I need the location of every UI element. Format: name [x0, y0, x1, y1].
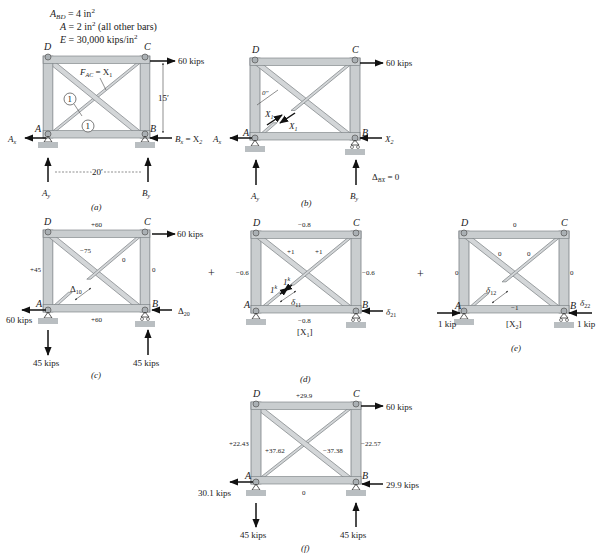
panel-e: D C A B 0 −1 0 0 0 0 δ12 1 kip δ22 1 kip… — [437, 217, 596, 353]
svg-text:29.9 kips: 29.9 kips — [386, 480, 420, 490]
svg-text:30.1 kips: 30.1 kips — [198, 488, 232, 498]
svg-text:Δ10: Δ10 — [70, 284, 82, 295]
material-properties: ABD = 4 in2 AA = 2 in = 2 in2 (all other… — [49, 7, 157, 45]
svg-text:C: C — [352, 44, 359, 55]
svg-text:+60: +60 — [91, 316, 102, 324]
svg-text:[X1]: [X1] — [297, 327, 313, 338]
svg-text:A: A — [243, 299, 251, 310]
svg-text:δ12: δ12 — [486, 285, 496, 296]
svg-text:0: 0 — [455, 269, 459, 277]
svg-text:A: A — [35, 298, 43, 309]
svg-text:−75: −75 — [80, 247, 91, 255]
svg-text:+45: +45 — [30, 266, 41, 274]
svg-text:By: By — [350, 191, 359, 202]
panel-d: D C A B −0.8 −0.8 −0.6 −0.6 +1 +1 1k 1k … — [236, 217, 396, 384]
svg-text:B: B — [152, 298, 158, 309]
svg-text:(e): (e) — [511, 343, 521, 353]
svg-text:0: 0 — [152, 266, 156, 274]
svg-text:−1: −1 — [511, 304, 519, 312]
svg-text:B: B — [362, 127, 368, 138]
svg-text:ABD = 4 in2: ABD = 4 in2 — [49, 7, 95, 21]
svg-text:[X2]: [X2] — [506, 319, 522, 330]
svg-text:+37.62: +37.62 — [265, 447, 285, 455]
svg-text:+1: +1 — [287, 248, 295, 256]
svg-text:Ay: Ay — [41, 188, 51, 199]
svg-text:D: D — [43, 216, 52, 227]
svg-text:−22.57: −22.57 — [361, 440, 381, 448]
svg-text:A: A — [34, 123, 42, 134]
svg-text:0: 0 — [513, 221, 517, 229]
svg-text:−37.38: −37.38 — [323, 447, 343, 455]
svg-text:C: C — [144, 41, 151, 52]
svg-text:E = 30,000 kips/in2: E = 30,000 kips/in2 — [59, 33, 138, 45]
svg-text:A: A — [242, 127, 250, 138]
svg-text:B: B — [150, 123, 156, 134]
svg-text:0: 0 — [527, 250, 531, 258]
svg-text:X1: X1 — [264, 109, 274, 120]
svg-text:0: 0 — [302, 489, 306, 497]
svg-text:δ22: δ22 — [580, 298, 590, 309]
svg-text:−0.6: −0.6 — [236, 269, 249, 277]
svg-text:0: 0 — [498, 250, 502, 258]
plus-operator: + — [208, 266, 215, 280]
panel-b: D C A B 60 kips 0″ X1 X1 Ax X2 Ay By ΔBX… — [212, 44, 413, 208]
svg-text:+1: +1 — [315, 248, 323, 256]
panel-f: D C A B +29.9 0 +22.43 −22.57 +37.62 −37… — [198, 388, 420, 553]
svg-text:0: 0 — [570, 269, 574, 277]
svg-text:+29.9: +29.9 — [296, 392, 313, 400]
svg-text:By: By — [142, 188, 151, 199]
svg-text:C: C — [561, 217, 568, 228]
svg-text:1 kip: 1 kip — [577, 319, 596, 329]
svg-text:+60: +60 — [91, 221, 102, 229]
svg-text:60 kips: 60 kips — [386, 58, 413, 68]
svg-text:20′: 20′ — [92, 167, 103, 177]
svg-text:Bx = X2: Bx = X2 — [175, 134, 202, 145]
svg-text:60 kips: 60 kips — [386, 402, 413, 412]
svg-text:(f): (f) — [301, 543, 310, 553]
svg-text:(b): (b) — [301, 198, 312, 208]
svg-text:60 kips: 60 kips — [178, 56, 205, 66]
svg-text:1: 1 — [68, 94, 73, 104]
svg-text:1k: 1k — [270, 284, 278, 295]
svg-text:0: 0 — [122, 256, 126, 264]
svg-text:Ax: Ax — [7, 134, 17, 145]
svg-text:1: 1 — [86, 121, 91, 131]
panel-c: D C A B +60 +60 +45 0 −75 0 60 kips Δ10 … — [6, 216, 204, 380]
svg-text:X2: X2 — [384, 134, 394, 145]
svg-text:D: D — [43, 41, 52, 52]
svg-text:+22.43: +22.43 — [229, 440, 249, 448]
svg-text:(a): (a) — [91, 202, 102, 212]
panel-a: D C A B 60 kips FAC = X1 1 1 15′ Ax Bx =… — [7, 41, 205, 212]
svg-text:C: C — [353, 388, 360, 399]
plus-operator: + — [417, 267, 424, 281]
svg-text:(d): (d) — [300, 374, 311, 384]
svg-text:δ11: δ11 — [291, 297, 301, 308]
svg-text:15′: 15′ — [158, 93, 169, 103]
svg-text:A: A — [454, 300, 462, 311]
svg-text:D: D — [460, 217, 469, 228]
svg-text:D: D — [252, 388, 261, 399]
svg-text:45 kips: 45 kips — [33, 358, 60, 368]
svg-text:B: B — [362, 470, 368, 481]
svg-text:X1: X1 — [288, 121, 298, 132]
svg-text:0″: 0″ — [262, 89, 269, 97]
svg-text:−0.8: −0.8 — [298, 221, 311, 229]
svg-text:D: D — [252, 217, 261, 228]
svg-text:Δ20: Δ20 — [178, 306, 190, 317]
svg-text:δ21: δ21 — [386, 307, 396, 318]
svg-text:ΔBX = 0: ΔBX = 0 — [372, 172, 400, 183]
svg-text:A: A — [244, 470, 252, 481]
svg-text:B: B — [362, 299, 368, 310]
svg-text:B: B — [570, 300, 576, 311]
svg-text:45 kips: 45 kips — [240, 530, 267, 540]
svg-text:60 kips: 60 kips — [177, 229, 204, 239]
svg-text:1 kip: 1 kip — [438, 319, 457, 329]
svg-text:Ay: Ay — [250, 191, 260, 202]
truss-diagram: ABD = 4 in2 AA = 2 in = 2 in2 (all other… — [0, 0, 606, 558]
svg-text:45 kips: 45 kips — [340, 530, 367, 540]
svg-text:−0.8: −0.8 — [298, 317, 311, 325]
svg-text:C: C — [144, 216, 151, 227]
svg-text:60 kips: 60 kips — [6, 315, 33, 325]
svg-text:D: D — [251, 44, 260, 55]
svg-text:−0.6: −0.6 — [362, 269, 375, 277]
